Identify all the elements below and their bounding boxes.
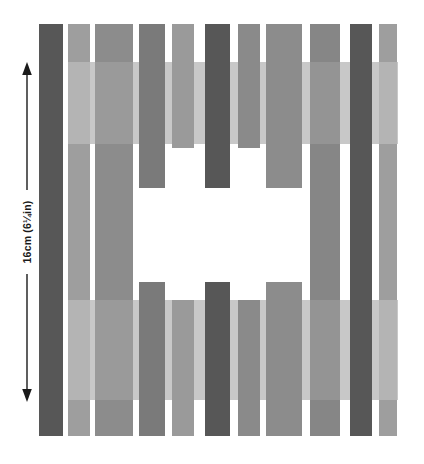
gap-9-mid — [340, 144, 350, 188]
aperture-notch-lower-right — [230, 282, 238, 300]
stripe-6-lower-dark — [205, 282, 230, 436]
gap-9-bottom — [340, 400, 350, 436]
gap-10-top — [372, 24, 379, 62]
gap-1-lowmid — [63, 282, 68, 300]
stripe-10-dark — [350, 24, 372, 436]
stripe-8-upper — [266, 24, 302, 188]
stripe-11-band-upper — [379, 62, 397, 144]
stripe-9-band-lower — [310, 300, 340, 400]
stripe-2-band-lower — [68, 300, 90, 400]
aperture-stripe-upper-group — [139, 24, 302, 188]
aperture-notch-lower-mid — [194, 282, 205, 300]
stripe-7-upper — [238, 24, 260, 148]
gap-7-bottom — [260, 400, 266, 436]
stripe-7-lower — [238, 300, 260, 436]
dimension-arrowhead-top-icon — [22, 62, 32, 75]
stripe-6-upper-dark — [205, 24, 230, 188]
gap-5-bottom — [194, 400, 205, 436]
gap-8-top — [302, 24, 310, 62]
gap-3-bottom — [133, 400, 139, 436]
stripe-3-band-upper — [95, 62, 133, 144]
gap-6-bottom — [230, 400, 238, 436]
stripe-4-lower — [139, 282, 165, 436]
stripe-8-lower — [266, 282, 302, 436]
stripe-layer — [0, 0, 424, 464]
gap-1-bottom — [63, 400, 68, 436]
stripe-11-band-lower — [379, 300, 397, 400]
stripe-1-dark — [39, 24, 63, 436]
gap-8-mid — [302, 144, 310, 188]
stripe-3-band-lower — [95, 300, 133, 400]
stripe-4-upper — [139, 24, 165, 188]
aperture-notch-upper-right — [230, 148, 238, 188]
gap-9-lowmid — [340, 282, 350, 300]
dimension-arrow — [22, 62, 32, 402]
aperture-stripe-lower-group — [139, 282, 302, 436]
gap-6-top — [230, 24, 238, 62]
gap-1-mid — [63, 144, 68, 188]
dimension-annotation: 16cm (6¼in) — [14, 62, 40, 402]
figure-canvas: 16cm (6¼in) — [0, 0, 424, 464]
dimension-arrowhead-bottom-icon — [22, 389, 32, 402]
gap-10-mid — [372, 144, 379, 188]
stripe-2-band-upper — [68, 62, 90, 144]
gap-3-lowmid — [133, 282, 139, 300]
stripe-5-lower — [172, 300, 194, 436]
gap-4-bottom — [165, 400, 172, 436]
gap-8-lowmid — [302, 282, 310, 300]
gap-3-top — [133, 24, 139, 62]
gap-2-lowmid — [90, 282, 95, 300]
gap-9-top — [340, 24, 350, 62]
aperture-notch-upper-left — [165, 148, 172, 188]
gap-1-top — [63, 24, 68, 62]
stripe-9-band-upper — [310, 62, 340, 144]
aperture-gap-center — [133, 188, 310, 282]
aperture-notch-upper-mid — [194, 148, 205, 188]
aperture-notch-lower-left — [165, 282, 172, 300]
gap-3-mid — [133, 144, 139, 188]
gap-5-top — [194, 24, 205, 62]
gap-4-top — [165, 24, 172, 62]
aperture-notch-lower-far — [260, 282, 266, 300]
gap-7-top — [260, 24, 266, 62]
gap-2-bottom — [90, 400, 95, 436]
gap-10-lowmid — [372, 282, 379, 300]
gap-2-mid — [90, 144, 95, 188]
gap-8-bottom — [302, 400, 310, 436]
aperture-notch-upper-far — [260, 148, 266, 188]
gap-10-bottom — [372, 400, 379, 436]
gap-2-top — [90, 24, 95, 62]
stripe-5-upper — [172, 24, 194, 148]
